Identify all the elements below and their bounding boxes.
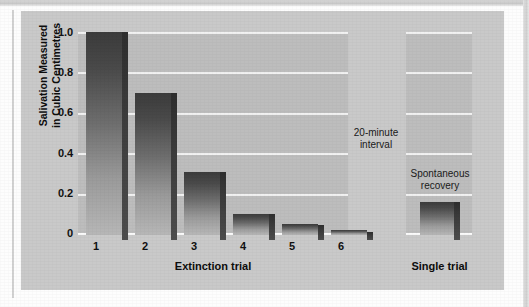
- bar-side: [454, 202, 460, 240]
- bar-face: [282, 224, 318, 235]
- gridline-0.2: [406, 194, 472, 196]
- bar-side: [318, 225, 324, 240]
- interval-annotation-line2: interval: [346, 139, 406, 151]
- page-top-rule: [0, 0, 529, 6]
- gridline-0.8: [406, 72, 472, 74]
- bar-side: [122, 32, 128, 240]
- gridline-0.6: [406, 113, 472, 115]
- interval-annotation: 20-minute interval: [346, 127, 406, 151]
- y-axis-title-line1: Salivation Measured: [37, 6, 50, 146]
- single-trial-axis-title: Single trial: [392, 260, 487, 272]
- x-tick-4: 4: [233, 240, 253, 252]
- chart-figure: 1.0 0.8 0.6 0.4 0.2 0 Salivation Measure…: [21, 11, 504, 290]
- interval-annotation-line1: 20-minute: [346, 127, 406, 139]
- x-tick-3: 3: [184, 240, 204, 252]
- bar-face: [233, 214, 269, 235]
- single-trial-plot-area: [406, 32, 472, 235]
- bar-trial-4: [233, 214, 269, 235]
- bar-face: [420, 202, 454, 235]
- bar-trial-5: [282, 224, 318, 235]
- gridline-1.0: [406, 32, 472, 34]
- bar-face: [86, 32, 122, 235]
- x-tick-5: 5: [282, 240, 302, 252]
- bar-side: [220, 172, 226, 240]
- bar-trial-6: [331, 230, 367, 235]
- page-left-hairline: [12, 10, 14, 298]
- bar-side: [269, 214, 275, 240]
- x-tick-6: 6: [331, 240, 351, 252]
- x-tick-2: 2: [135, 240, 155, 252]
- bar-side: [171, 93, 177, 240]
- bar-face: [184, 172, 220, 235]
- y-tick-0.4: 0.4: [58, 147, 73, 159]
- bar-face: [135, 93, 171, 235]
- recovery-annotation-line1: Spontaneous: [400, 168, 480, 180]
- bar-side: [367, 232, 373, 240]
- page-right-rule: [523, 0, 529, 307]
- extinction-plot-area: [78, 32, 348, 235]
- recovery-annotation-line2: recovery: [400, 180, 480, 192]
- figure-page: 1.0 0.8 0.6 0.4 0.2 0 Salivation Measure…: [0, 0, 529, 307]
- bar-face: [331, 230, 367, 235]
- gridline-0.4: [406, 153, 472, 155]
- bar-trial-2: [135, 93, 171, 235]
- y-axis-title: Salivation Measured in Cubic Centimetres: [37, 6, 62, 146]
- x-axis-title: Extinction trial: [78, 260, 348, 272]
- y-tick-0: 0: [67, 227, 73, 239]
- y-axis-title-line2: in Cubic Centimetres: [49, 6, 62, 146]
- bar-trial-1: [86, 32, 122, 235]
- bar-spontaneous-recovery: [420, 202, 454, 235]
- y-tick-0.2: 0.2: [58, 187, 73, 199]
- spontaneous-recovery-annotation: Spontaneous recovery: [400, 168, 480, 192]
- bar-trial-3: [184, 172, 220, 235]
- x-tick-1: 1: [86, 240, 106, 252]
